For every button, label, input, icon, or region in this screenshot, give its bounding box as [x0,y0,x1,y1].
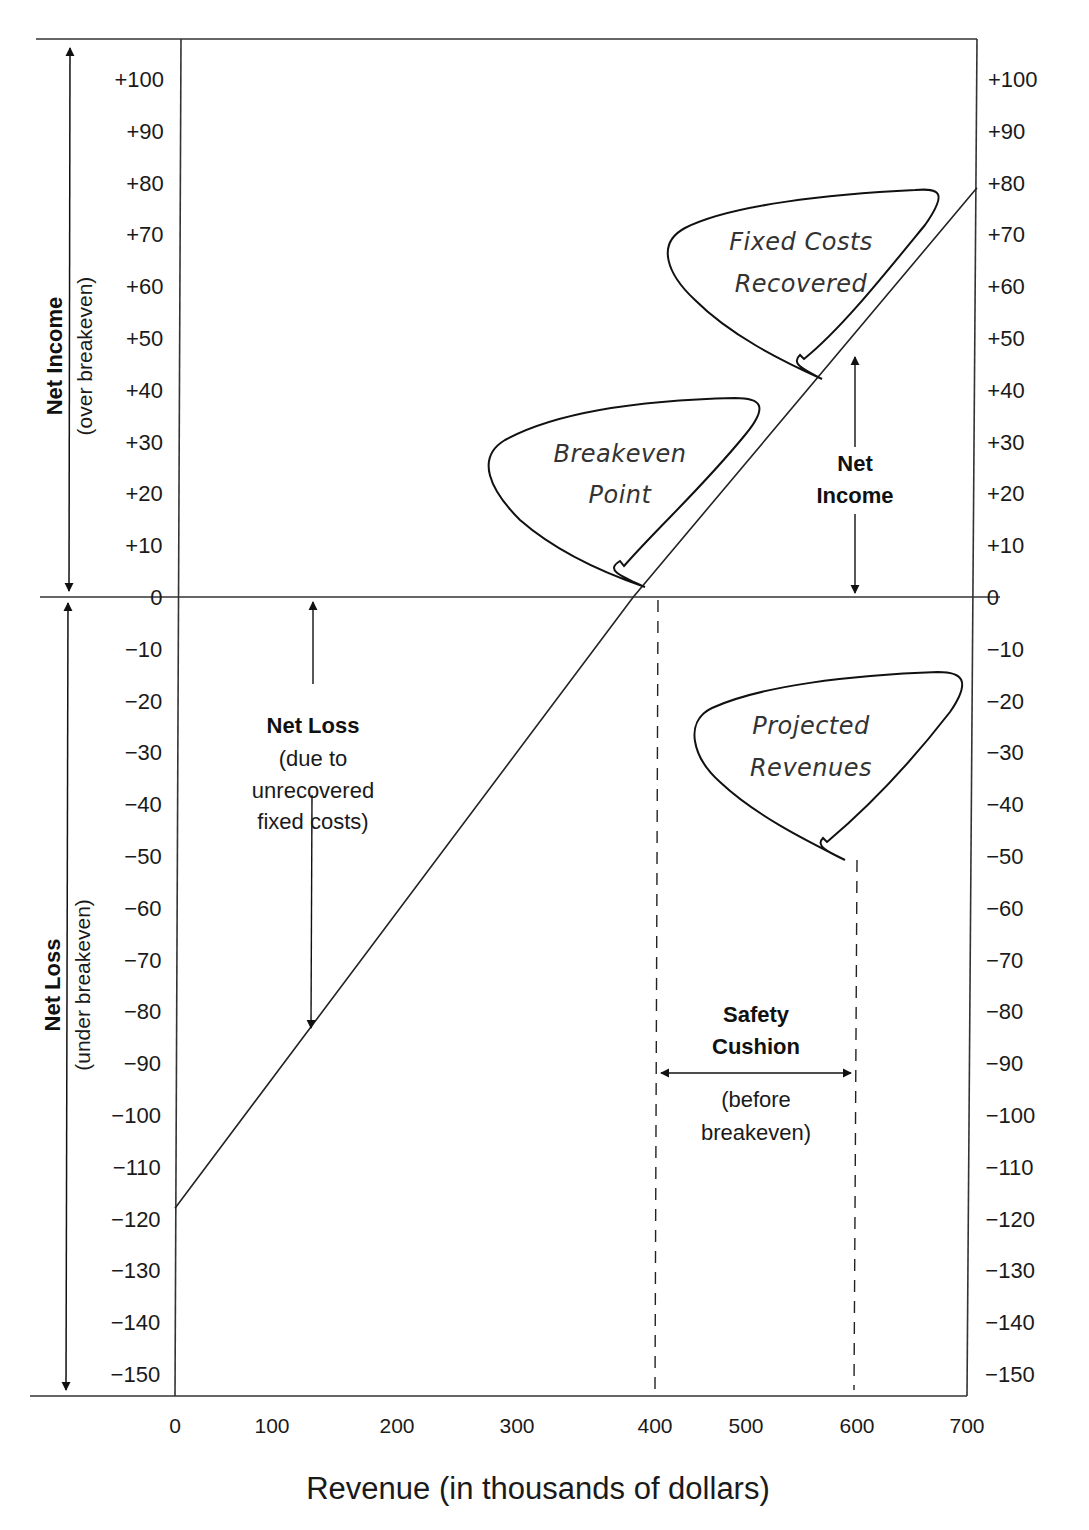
y-tick-right: +60 [988,274,1025,299]
y-tick-left: −120 [111,1207,161,1232]
y-tick-left: −110 [113,1155,161,1180]
x-tick: 0 [169,1414,181,1437]
y-label-bottom-sub-group: (under breakeven) [71,899,94,1071]
y-ticks-right: +100+90+80+70+60+50+40+30+20+100−10−20−3… [985,67,1037,1387]
safety-cushion-title-2: Cushion [712,1034,800,1059]
y-tick-right: −10 [987,637,1024,662]
safety-cushion-title-1: Safety [723,1002,790,1027]
y-tick-left: −150 [111,1362,161,1387]
y-tick-right: −70 [986,948,1023,973]
callout-breakeven-point: Breakeven Point [489,398,760,587]
y-tick-left: −70 [124,948,161,973]
y-tick-left: +70 [126,222,163,247]
y-ticks-left: +100+90+80+70+60+50+40+30+20+100−10−20−3… [111,67,164,1387]
y-tick-right: −100 [986,1103,1036,1128]
y-tick-left: +30 [126,430,163,455]
y-axis-left [175,39,181,1396]
breakeven-dashed-line [655,600,658,1390]
x-tick: 600 [839,1414,874,1437]
y-tick-left: −50 [124,844,161,869]
x-tick: 100 [254,1414,289,1437]
y-label-top: Net Income [42,297,67,416]
callout-text-1: Projected [752,712,870,740]
y-tick-left: −90 [124,1051,161,1076]
y-tick-left: +50 [126,326,163,351]
net-loss-line-1: (due to [279,746,348,771]
y-tick-left: −40 [125,792,162,817]
y-tick-right: +20 [987,481,1024,506]
y-tick-right: −150 [985,1362,1035,1387]
y-tick-right: −80 [986,999,1023,1024]
y-label-bottom: Net Loss [40,939,65,1032]
breakeven-chart: Net Income (over breakeven) Net Loss (un… [0,0,1089,1530]
y-tick-left: −10 [125,637,162,662]
safety-cushion-sub-1: (before [721,1087,791,1112]
net-loss-range-arrow [66,603,68,1390]
safety-cushion-sub-2: breakeven) [701,1120,811,1145]
y-label-bottom-sub: (under breakeven) [71,899,94,1071]
y-tick-right: +70 [988,222,1025,247]
y-tick-right: −60 [986,896,1023,921]
y-tick-left: −140 [111,1310,161,1335]
y-tick-right: −130 [985,1258,1035,1283]
y-tick-right: 0 [987,585,999,610]
y-label-bottom-group: Net Loss [40,939,65,1032]
y-tick-left: −100 [111,1103,161,1128]
y-tick-left: +90 [127,119,164,144]
y-tick-left: +40 [126,378,163,403]
y-tick-left: −60 [124,896,161,921]
y-label-top-sub-group: (over breakeven) [73,277,96,436]
net-income-range-arrow [69,48,70,591]
right-border [967,39,977,1396]
y-tick-left: +20 [125,481,162,506]
net-income-label-2: Income [816,483,893,508]
net-income-label-1: Net [837,451,873,476]
y-tick-left: −80 [124,999,161,1024]
x-tick: 200 [379,1414,414,1437]
y-tick-right: −40 [986,792,1023,817]
y-tick-left: +60 [126,274,163,299]
y-tick-right: −30 [987,740,1024,765]
callout-text-1: Breakeven [553,440,686,468]
y-tick-right: −110 [986,1155,1034,1180]
x-tick: 300 [499,1414,534,1437]
y-tick-left: +100 [114,67,164,92]
y-label-top-group: Net Income [42,297,67,416]
x-tick: 400 [637,1414,672,1437]
y-tick-right: +40 [987,378,1024,403]
x-ticks: 0100200300400500600700 [169,1414,984,1437]
y-tick-left: 0 [150,585,162,610]
y-tick-right: +90 [988,119,1025,144]
x-tick: 700 [949,1414,984,1437]
y-tick-right: +10 [987,533,1024,558]
x-tick: 500 [728,1414,763,1437]
callout-text-2: Recovered [735,270,868,298]
y-tick-right: +100 [988,67,1038,92]
callout-text-2: Point [589,481,653,509]
y-tick-right: −20 [987,689,1024,714]
y-tick-right: +80 [988,171,1025,196]
y-tick-right: −50 [986,844,1023,869]
x-axis-label: Revenue (in thousands of dollars) [306,1471,770,1506]
callout-text-2: Revenues [750,754,872,782]
y-tick-right: −140 [985,1310,1035,1335]
callout-projected-revenues: Projected Revenues [694,672,962,860]
y-tick-right: +50 [987,326,1024,351]
y-tick-left: −130 [111,1258,161,1283]
y-label-top-sub: (over breakeven) [73,277,96,436]
net-loss-title: Net Loss [267,713,360,738]
y-tick-left: −30 [125,740,162,765]
y-tick-left: −20 [125,689,162,714]
callout-fixed-costs-recovered: Fixed Costs Recovered [668,190,939,379]
net-loss-line-3: fixed costs) [257,809,368,834]
y-tick-right: −90 [986,1051,1023,1076]
callout-text-1: Fixed Costs [729,228,873,256]
y-tick-right: −120 [985,1207,1035,1232]
net-loss-line-2: unrecovered [252,778,374,803]
y-tick-left: +10 [125,533,162,558]
y-tick-left: +80 [126,171,163,196]
y-tick-right: +30 [987,430,1024,455]
net-income-line [175,188,977,1208]
projected-revenue-dashed-line [854,860,857,1390]
